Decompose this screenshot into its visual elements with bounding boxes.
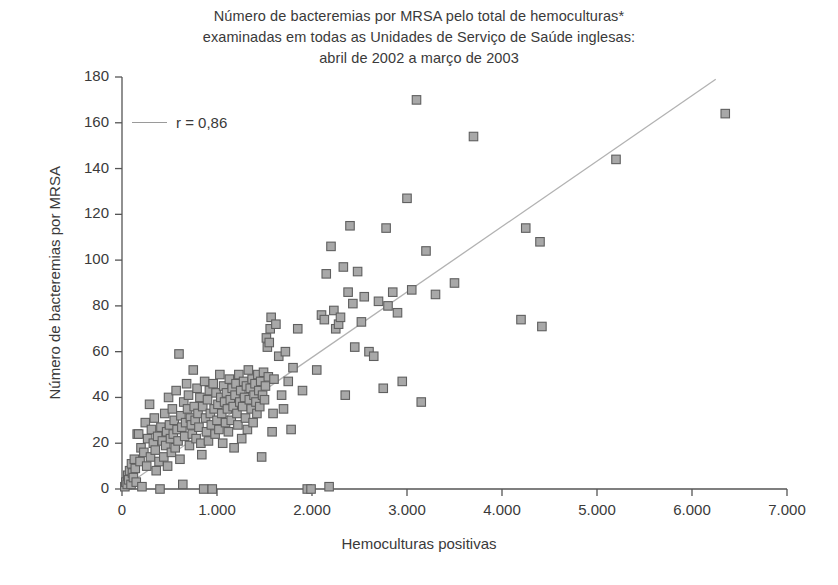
scatter-point <box>281 347 290 356</box>
scatter-point <box>260 395 269 404</box>
y-tick-label: 80 <box>63 296 109 313</box>
x-tick-label: 0 <box>77 501 167 518</box>
scatter-point <box>370 352 379 361</box>
scatter-point <box>450 279 459 288</box>
scatter-point <box>237 434 246 443</box>
scatter-point <box>163 462 172 471</box>
legend-line-swatch <box>132 122 167 123</box>
scatter-point <box>284 377 293 386</box>
scatter-point <box>198 450 207 459</box>
scatter-point <box>277 391 286 400</box>
scatter-point <box>168 405 177 414</box>
x-tick-label: 5.000 <box>552 501 642 518</box>
scatter-point <box>339 263 348 272</box>
scatter-point <box>517 315 526 324</box>
scatter-point <box>384 302 393 311</box>
scatter-point <box>344 288 353 297</box>
scatter-plot-canvas <box>0 0 838 585</box>
scatter-point <box>379 384 388 393</box>
scatter-point <box>353 267 362 276</box>
scatter-point <box>322 270 331 279</box>
scatter-point <box>320 315 329 324</box>
x-axis-label: Hemoculturas positivas <box>0 535 838 552</box>
scatter-point <box>151 446 160 455</box>
scatter-point <box>224 428 233 437</box>
y-tick-label: 140 <box>63 159 109 176</box>
scatter-point <box>422 247 431 256</box>
scatter-point <box>230 444 239 453</box>
scatter-point <box>182 379 191 388</box>
scatter-point <box>403 194 412 203</box>
scatter-point <box>249 418 258 427</box>
y-tick-label: 40 <box>63 387 109 404</box>
scatter-point <box>145 400 154 409</box>
scatter-point <box>307 485 316 494</box>
x-tick-label: 2.000 <box>267 501 357 518</box>
scatter-point <box>349 299 358 308</box>
y-tick-label: 120 <box>63 204 109 221</box>
scatter-point <box>261 382 270 391</box>
scatter-point <box>382 224 391 233</box>
scatter-point <box>244 366 253 375</box>
scatter-point <box>431 290 440 299</box>
scatter-point <box>408 286 417 295</box>
scatter-point <box>150 414 159 423</box>
scatter-point <box>721 109 730 118</box>
scatter-point <box>257 453 266 462</box>
scatter-point <box>294 325 303 334</box>
scatter-point <box>536 238 545 247</box>
scatter-point <box>199 485 208 494</box>
scatter-point <box>412 96 421 105</box>
x-tick-label: 6.000 <box>647 501 737 518</box>
y-axis-label: Número de bacteremias por MRSA <box>46 166 63 399</box>
scatter-point <box>360 292 369 301</box>
scatter-point <box>172 386 181 395</box>
y-tick-label: 60 <box>63 342 109 359</box>
scatter-point <box>272 320 281 329</box>
x-tick-label: 1.000 <box>172 501 262 518</box>
scatter-point <box>469 132 478 141</box>
scatter-point <box>341 391 350 400</box>
scatter-point <box>289 363 298 372</box>
scatter-point <box>351 343 360 352</box>
scatter-point <box>189 366 198 375</box>
legend-label: r = 0,86 <box>176 114 227 131</box>
scatter-point <box>269 409 278 418</box>
scatter-point <box>156 485 165 494</box>
scatter-point <box>218 439 227 448</box>
scatter-point <box>327 242 336 251</box>
scatter-point <box>389 288 398 297</box>
scatter-point <box>612 155 621 164</box>
scatter-point <box>184 391 193 400</box>
scatter-point <box>134 430 143 439</box>
y-tick-label: 180 <box>63 67 109 84</box>
scatter-point <box>374 297 383 306</box>
scatter-point <box>142 462 151 471</box>
scatter-point <box>538 322 547 331</box>
scatter-point <box>200 377 209 386</box>
scatter-point <box>357 318 366 327</box>
y-tick-label: 160 <box>63 113 109 130</box>
scatter-point <box>522 224 531 233</box>
scatter-point <box>268 428 277 437</box>
x-tick-label: 3.000 <box>362 501 452 518</box>
scatter-point <box>346 222 355 231</box>
scatter-point <box>179 480 188 489</box>
scatter-point <box>138 482 147 491</box>
legend: r = 0,86 <box>132 114 227 131</box>
scatter-point <box>203 395 212 404</box>
scatter-point <box>175 350 184 359</box>
scatter-point <box>176 455 185 464</box>
chart-figure: Número de bacteremias por MRSA pelo tota… <box>0 0 838 585</box>
scatter-point <box>216 370 225 379</box>
scatter-point <box>393 309 402 318</box>
scatter-point <box>336 313 345 322</box>
y-tick-label: 100 <box>63 250 109 267</box>
scatter-point <box>398 377 407 386</box>
x-tick-label: 4.000 <box>457 501 547 518</box>
scatter-point <box>313 366 322 375</box>
x-tick-label: 7.000 <box>742 501 832 518</box>
scatter-point <box>152 466 161 475</box>
scatter-point <box>209 379 218 388</box>
scatter-point <box>270 375 279 384</box>
